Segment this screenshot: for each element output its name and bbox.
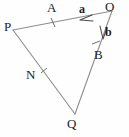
figure-canvas <box>0 0 129 137</box>
vector-label-b: b <box>105 26 112 38</box>
point-label-Q: Q <box>67 117 76 130</box>
point-label-P: P <box>4 20 11 33</box>
vector-geometry-figure: P A O B N Q a b <box>0 0 129 137</box>
segment-PO <box>13 11 112 30</box>
point-label-B: B <box>94 48 103 61</box>
segment-PQ <box>13 30 75 114</box>
tick-mark-B <box>92 41 100 44</box>
vector-label-a: a <box>79 3 85 15</box>
point-label-A: A <box>47 1 56 14</box>
point-label-N: N <box>26 68 35 81</box>
point-label-O: O <box>105 0 114 13</box>
